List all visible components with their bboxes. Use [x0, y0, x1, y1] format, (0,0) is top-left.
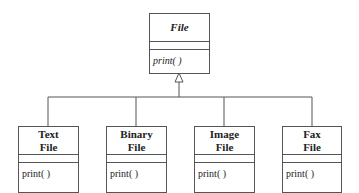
- class-binary-file: Binary File print( ): [106, 126, 167, 193]
- attributes-compartment: [195, 155, 254, 163]
- class-name-line2: File: [128, 141, 146, 154]
- method-print: print( ): [153, 55, 182, 66]
- method-print: print( ): [110, 168, 138, 179]
- methods-compartment: print( ): [19, 163, 78, 179]
- class-name-line1: Binary: [120, 128, 152, 141]
- attributes-compartment: [107, 155, 166, 163]
- attributes-compartment: [150, 42, 209, 50]
- attributes-compartment: [283, 155, 341, 163]
- class-name: Binary File: [107, 127, 166, 155]
- method-print: print( ): [286, 168, 314, 179]
- methods-compartment: print( ): [195, 163, 254, 179]
- class-name-line2: File: [40, 141, 58, 154]
- attributes-compartment: [19, 155, 78, 163]
- methods-compartment: print( ): [150, 50, 209, 66]
- generalization-arrowhead-icon: [175, 73, 183, 82]
- class-name: Fax File: [283, 127, 341, 155]
- class-name-text: File: [170, 21, 188, 34]
- method-print: print( ): [198, 168, 226, 179]
- methods-compartment: print( ): [107, 163, 166, 179]
- class-fax-file: Fax File print( ): [282, 126, 342, 193]
- class-name-line2: File: [216, 141, 234, 154]
- methods-compartment: print( ): [283, 163, 341, 179]
- class-name: Text File: [19, 127, 78, 155]
- class-name-line1: Fax: [303, 128, 321, 141]
- class-name-line2: File: [303, 141, 321, 154]
- class-file: File print( ): [149, 13, 210, 74]
- class-text-file: Text File print( ): [18, 126, 79, 193]
- class-name: File: [150, 14, 209, 42]
- class-name-line1: Text: [38, 128, 58, 141]
- method-print: print( ): [22, 168, 50, 179]
- class-name: Image File: [195, 127, 254, 155]
- class-image-file: Image File print( ): [194, 126, 255, 193]
- class-name-line1: Image: [210, 128, 239, 141]
